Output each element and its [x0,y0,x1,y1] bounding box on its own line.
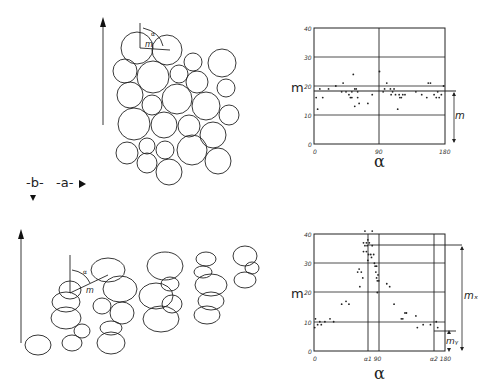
top-xtick-0: 0 [313,148,317,155]
bottom-ytick-40: 40 [304,231,312,238]
bottom-xtick-a2-180: α2 180 [430,355,451,362]
data-point [382,91,384,93]
data-point [416,327,418,329]
data-point [367,239,369,241]
bottom-ytick-0: 0 [308,348,312,355]
data-point [359,286,361,288]
data-point [390,88,392,90]
data-point [366,245,368,247]
data-point [415,91,417,93]
data-point [360,271,362,273]
top-xtick-180: 180 [439,148,450,155]
data-point [438,97,440,99]
bottom-ytick-20: 20 [304,289,312,296]
data-point [433,94,435,96]
data-point [422,324,424,326]
top-chart-points [315,71,444,111]
data-point [341,91,343,93]
data-point [324,321,326,323]
data-point [386,283,388,285]
data-point [397,108,399,110]
top-chart-xlabel: α [374,152,385,171]
data-point [406,312,408,314]
data-point [437,327,439,329]
top-ytick-0: 0 [308,141,312,148]
b-direction-arrow-icon [30,195,36,201]
data-point [437,91,439,93]
data-point [392,91,394,93]
data-point [398,94,400,96]
data-point [322,97,324,99]
top-arrowhead-icon [100,17,106,27]
data-point [357,97,359,99]
data-point [373,254,375,256]
bottom-bracket-my-label: mᵧ [446,336,458,346]
data-point [430,324,432,326]
data-point [351,91,353,93]
data-point [357,271,359,273]
bottom-xtick-a1-90: α1 90 [364,355,381,362]
data-point [345,91,347,93]
data-point [368,254,370,256]
bottom-chart-ylabel: m [291,286,304,301]
data-point [333,321,335,323]
data-point [341,303,343,305]
data-point [354,105,356,107]
data-point [342,82,344,84]
data-point [371,94,373,96]
data-point [367,103,369,105]
top-bracket-m-label: m [455,110,465,121]
bottom-ytick-10: 10 [304,319,312,326]
data-point [364,245,366,247]
data-point [421,94,423,96]
data-point [351,97,353,99]
data-point [393,88,395,90]
data-point [376,277,378,279]
top-sketch-alpha-label: α [151,30,155,37]
data-point [319,88,321,90]
data-point [352,74,354,76]
data-point [415,315,417,317]
data-point [386,82,388,84]
data-point [329,318,331,320]
data-point [363,251,365,253]
top-ytick-10: 10 [304,112,312,119]
data-point [319,321,321,323]
data-point [355,88,357,90]
top-sketch-m-label: m [145,40,153,49]
data-point [371,257,373,259]
data-point [374,262,376,264]
data-point [366,251,368,253]
data-point [375,271,377,273]
data-point [376,265,378,267]
data-point [384,88,386,90]
data-point [376,292,378,294]
top-ytick-20: 20 [304,83,312,90]
data-point [389,286,391,288]
data-point [357,91,359,93]
data-point [366,242,368,244]
data-point [370,254,372,256]
data-point [363,242,365,244]
data-point [378,280,380,282]
data-point [402,94,404,96]
data-point [368,242,370,244]
data-point [315,97,317,99]
data-point [427,82,429,84]
top-sketch [100,17,239,185]
data-point [348,94,350,96]
bottom-bracket-mx-label: mₓ [464,290,478,301]
legend-a-label: -a- [56,175,73,190]
data-point [314,327,316,329]
bottom-sketch-m-label: m [86,286,94,295]
bottom-xtick-0: 0 [313,355,317,362]
bottom-arrowhead-icon [18,229,24,239]
bottom-chart-xlabel: α [374,364,385,383]
data-point [348,303,350,305]
data-point [320,324,322,326]
bottom-ytick-30: 30 [304,260,312,267]
data-point [335,85,337,87]
data-point [393,303,395,305]
data-point [400,97,402,99]
